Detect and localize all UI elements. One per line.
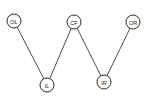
node-il: IL (40, 78, 54, 92)
node-ol: OL (7, 14, 21, 28)
node-cf-label: CF (70, 20, 78, 26)
node-il-label: IL (45, 83, 50, 89)
w-shaped-node-diagram: OL CF OR IL IR (0, 0, 146, 108)
node-ir: IR (97, 75, 111, 89)
edge-il-cf (47, 22, 74, 85)
node-ol-label: OL (10, 19, 17, 25)
edge-cf-ir (74, 22, 104, 82)
node-ir-label: IR (101, 80, 107, 86)
node-or: OR (126, 15, 140, 29)
node-cf: CF (67, 15, 81, 29)
nodes-group: OL CF OR IL IR (7, 14, 140, 92)
edge-ir-or (104, 22, 133, 82)
node-or-label: OR (129, 20, 137, 26)
edges-group (14, 21, 133, 85)
edge-ol-il (14, 21, 47, 85)
